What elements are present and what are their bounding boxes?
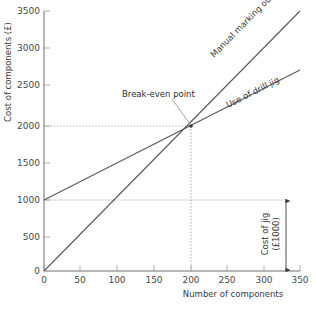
y-axis-title: Cost of components (£): [3, 22, 13, 122]
y-tick-label: 1500: [17, 158, 40, 168]
cost-of-jig-label-line2: (£1000): [271, 217, 281, 251]
y-tick-label: 500: [23, 232, 40, 242]
y-tick-label: 3500: [17, 6, 40, 16]
y-tick-label: 1000: [17, 195, 40, 205]
x-tick-label: 250: [218, 275, 235, 285]
x-tick-label: 200: [182, 275, 199, 285]
y-tick-label: 2500: [17, 80, 40, 90]
cost-of-jig-label-line1: Cost of jig: [260, 213, 270, 256]
x-tick-label: 100: [108, 275, 125, 285]
y-tick-label: 0: [34, 266, 40, 276]
x-tick-label: 150: [145, 275, 162, 285]
x-tick-label: 350: [291, 275, 308, 285]
break-even-marker: [189, 124, 193, 128]
x-axis-title: Number of components: [183, 289, 284, 299]
break-even-line-chart: 3500 3000 2500 2000 1500 1000 500 0 0 50…: [0, 0, 316, 310]
x-tick-label: 0: [41, 275, 47, 285]
y-tick-label: 3000: [17, 43, 40, 53]
break-even-point-label: Break-even point: [122, 89, 195, 99]
x-tick-label: 50: [74, 275, 86, 285]
chart-figure: 3500 3000 2500 2000 1500 1000 500 0 0 50…: [0, 0, 316, 310]
x-tick-label: 300: [255, 275, 272, 285]
y-tick-label: 2000: [17, 121, 40, 131]
